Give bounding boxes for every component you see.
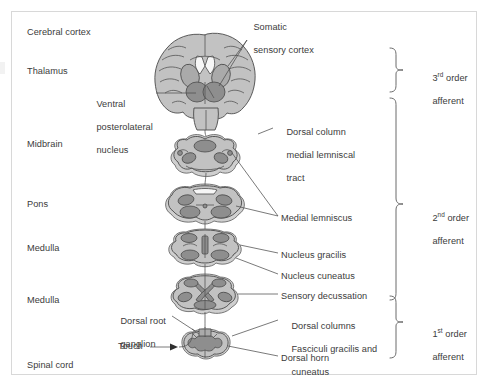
drg-line-1: Dorsal root — [120, 316, 165, 326]
first-order-line-2: afferent — [432, 352, 463, 362]
label-somatic-sensory-cortex: Somatic sensory cortex — [243, 11, 314, 68]
second-order-line-2: afferent — [432, 236, 463, 246]
second-order-rest: order — [445, 213, 469, 223]
upper-medulla-section — [169, 229, 242, 267]
label-pons: Pons — [27, 199, 48, 210]
second-order-suffix: nd — [438, 211, 445, 218]
diagram-page: Cerebral cortex Thalamus Midbrain Pons M… — [0, 0, 490, 392]
vpl-line-2: posterolateral — [96, 122, 152, 132]
label-dorsal-column-medial-lemniscal-tract: Dorsal column medial lemniscal tract — [276, 116, 355, 196]
label-spinal-cord: Spinal cord — [27, 360, 74, 371]
label-touch: Touch — [118, 341, 143, 352]
dorsal-columns-line-1: Dorsal columns — [291, 321, 355, 331]
somatic-sensory-cortex-line-1: Somatic — [253, 22, 287, 32]
label-ventral-posterolateral-nucleus: Ventral posterolateral nucleus — [86, 88, 153, 168]
label-first-order-afferent: 1st order afferent — [422, 318, 467, 375]
third-order-line-2: afferent — [432, 96, 463, 106]
label-sensory-decussation: Sensory decussation — [281, 291, 367, 302]
lower-medulla-section — [171, 274, 238, 314]
third-order-rest: order — [443, 73, 467, 83]
label-medulla-lower: Medulla — [27, 295, 60, 306]
label-nucleus-gracilis: Nucleus gracilis — [281, 250, 346, 261]
somatic-sensory-cortex-line-2: sensory cortex — [253, 45, 313, 55]
label-dorsal-horn: Dorsal horn — [281, 353, 329, 364]
label-nucleus-cuneatus: Nucleus cuneatus — [281, 271, 355, 282]
pons-section — [166, 184, 245, 224]
dcml-line-3: tract — [286, 173, 304, 183]
label-cerebral-cortex: Cerebral cortex — [27, 27, 91, 38]
label-thalamus: Thalamus — [27, 66, 68, 77]
label-medial-lemniscus: Medial lemniscus — [281, 213, 352, 224]
first-order-rest: order — [443, 329, 467, 339]
midbrain-section — [171, 135, 240, 177]
label-second-order-afferent: 2nd order afferent — [422, 202, 469, 259]
vpl-line-3: nucleus — [96, 145, 128, 155]
label-midbrain: Midbrain — [27, 139, 63, 150]
spinal-cord-section — [182, 327, 230, 359]
label-dorsal-columns-fasciculi: Dorsal columns Fasciculi gracilis and cu… — [281, 310, 377, 390]
dorsal-columns-line-3: cuneatus — [291, 367, 329, 377]
brain-coronal-section — [155, 33, 255, 130]
vpl-line-1: Ventral — [96, 99, 125, 109]
dcml-line-2: medial lemniscal — [286, 150, 355, 160]
label-third-order-afferent: 3rd order afferent — [422, 62, 468, 119]
dcml-line-1: Dorsal column — [286, 127, 345, 137]
label-medulla-upper: Medulla — [27, 243, 60, 254]
label-dorsal-root-ganglion: Dorsal root ganglion — [110, 305, 166, 362]
